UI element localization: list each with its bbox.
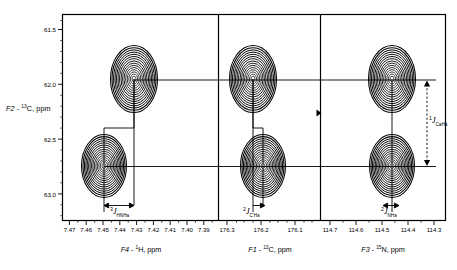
x-axis-ticks-panel-f1 xyxy=(227,221,312,226)
y-axis-ticks xyxy=(58,21,63,216)
x-axis-label-f4-prefix: F4 xyxy=(121,245,129,254)
y-axis-label-prefix: F2 xyxy=(6,104,15,113)
x-tick-f1-2: 176.1 xyxy=(284,227,307,233)
x-axis-label-f4-nucleus: H, ppm xyxy=(138,245,161,254)
x-tick-f4-8: 7.39 xyxy=(192,227,215,233)
y-tick-label-1: 62.0 xyxy=(30,81,56,88)
y-tick-label-2: 62.5 xyxy=(30,136,56,143)
x-axis-ticks-panel-f3 xyxy=(330,221,434,226)
j-coupling-subscript-f3: NHa xyxy=(388,213,397,218)
x-tick-f3-0: 114.7 xyxy=(319,227,342,233)
x-tick-f3-3: 114.4 xyxy=(397,227,420,233)
x-axis-label-f1: F1 - 13C, ppm xyxy=(225,245,315,254)
x-axis-label-f3: F3 - 15N, ppm xyxy=(338,245,428,254)
x-tick-f3-1: 114.6 xyxy=(345,227,368,233)
x-tick-f1-0: 176.3 xyxy=(216,227,239,233)
x-axis-ticks-panel-f4 xyxy=(69,221,212,226)
x-axis-label-f1-nucleus: C, ppm xyxy=(268,245,291,254)
peak-group-panel-f1 xyxy=(230,46,286,213)
vertical-j-coupling-label: 1JCaHa xyxy=(429,115,447,127)
j-coupling-label-f3: 2JNHa xyxy=(381,206,397,218)
peak-group-panel-f4 xyxy=(82,46,158,213)
y-tick-label-0: 61.5 xyxy=(30,26,56,33)
x-axis-label-f4: F4 - 1H, ppm xyxy=(96,245,186,254)
y-axis-label-nucleus: C, ppm xyxy=(27,104,51,113)
peak-group-panel-f3 xyxy=(369,46,416,213)
y-tick-label-3: 63.0 xyxy=(30,191,56,198)
x-tick-f3-2: 114.5 xyxy=(371,227,394,233)
j-coupling-subscript-f4: HNHa xyxy=(117,213,130,218)
j-coupling-label-f1: 2JC'Ha xyxy=(243,206,260,218)
x-axis-label-f1-prefix: F1 xyxy=(248,245,256,254)
x-tick-f3-4: 114.3 xyxy=(423,227,446,233)
x-axis-label-f3-nucleus: N, ppm xyxy=(381,245,404,254)
x-tick-f1-1: 176.2 xyxy=(250,227,273,233)
vertical-j-subscript: CaHa xyxy=(436,122,448,127)
j-coupling-label-f4: 3JHNHa xyxy=(110,206,129,218)
j-coupling-subscript-f1: C'Ha xyxy=(250,213,260,218)
x-axis-label-f3-prefix: F3 xyxy=(361,245,369,254)
y-axis-label: F2 - 13C, ppm xyxy=(6,104,51,113)
